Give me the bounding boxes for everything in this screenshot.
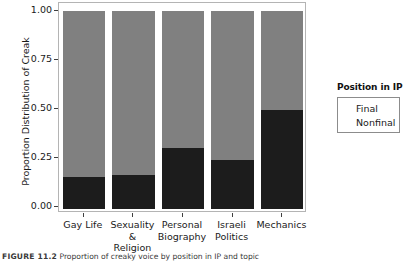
- plot-area: [59, 3, 305, 211]
- x-tick-mark-5: [281, 213, 282, 217]
- bar-segment-nonfinal[interactable]: [261, 11, 303, 110]
- bar-segment-nonfinal[interactable]: [162, 11, 204, 148]
- bar-personal-biography[interactable]: [162, 11, 204, 209]
- legend-swatch-nonfinal: [341, 117, 352, 128]
- x-tick-label-3: PersonalBiography: [157, 219, 207, 242]
- bar-segment-final[interactable]: [63, 177, 105, 209]
- bar-segment-nonfinal[interactable]: [63, 11, 105, 177]
- legend: Position in IP Final Nonfinal: [337, 82, 411, 133]
- bar-segment-nonfinal[interactable]: [112, 11, 154, 175]
- y-tick-label-3: 0.50: [22, 103, 52, 113]
- figure-creak-by-position-and-topic: Proportion Distribution of Creak 1.00 0.…: [0, 0, 414, 262]
- x-tick-label-1: Gay Life: [58, 219, 108, 231]
- bar-israeli-politics[interactable]: [211, 11, 253, 209]
- bar-segment-final[interactable]: [112, 175, 154, 209]
- legend-label-nonfinal: Nonfinal: [356, 117, 395, 128]
- figure-caption: FIGURE 11.2 Proportion of creaky voice b…: [2, 252, 412, 261]
- x-tick-label-5: Mechanics: [256, 219, 306, 231]
- legend-label-final: Final: [356, 103, 378, 114]
- figure-caption-text: Proportion of creaky voice by position i…: [59, 252, 259, 261]
- bar-mechanics[interactable]: [261, 11, 303, 209]
- bar-segment-final[interactable]: [261, 110, 303, 209]
- legend-swatch-final: [341, 103, 352, 114]
- x-tick-mark-3: [182, 213, 183, 217]
- y-tick-label-1: 1.00: [22, 5, 52, 15]
- y-tick-label-4: 0.25: [22, 152, 52, 162]
- x-tick-mark-1: [83, 213, 84, 217]
- bar-gay-life[interactable]: [63, 11, 105, 209]
- bar-sexuality-religion[interactable]: [112, 11, 154, 209]
- y-tick-label-2: 0.75: [22, 54, 52, 64]
- x-tick-mark-4: [232, 213, 233, 217]
- bar-segment-final[interactable]: [162, 148, 204, 209]
- x-tick-label-4: IsraeliPolitics: [207, 219, 257, 242]
- bar-segment-nonfinal[interactable]: [211, 11, 253, 160]
- y-tick-label-5: 0.00: [22, 201, 52, 211]
- figure-caption-number: FIGURE 11.2: [2, 252, 57, 261]
- x-tick-label-2: Sexuality &Religion: [108, 219, 158, 254]
- legend-item-nonfinal[interactable]: Nonfinal: [341, 115, 395, 129]
- plot-panel: [58, 2, 306, 212]
- x-tick-mark-2: [132, 213, 133, 217]
- legend-box: Final Nonfinal: [337, 97, 400, 133]
- legend-item-final[interactable]: Final: [341, 101, 395, 115]
- legend-title: Position in IP: [337, 82, 411, 92]
- y-axis-tick-labels: 1.00 0.75 0.50 0.25 0.00: [22, 0, 52, 262]
- bar-segment-final[interactable]: [211, 160, 253, 210]
